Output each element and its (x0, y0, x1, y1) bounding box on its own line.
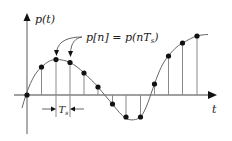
sample-point (123, 114, 128, 119)
sample-point (24, 92, 29, 97)
sample-point (152, 81, 157, 86)
sample-point (67, 60, 72, 65)
y-axis-label: p(t) (35, 13, 55, 26)
x-axis-label: t (212, 103, 217, 116)
sample-point (166, 53, 171, 58)
sampling-equation: p[n] = p(nTs) (86, 31, 159, 45)
period-label: Ts (59, 104, 69, 116)
sample-point (81, 70, 86, 75)
x-axis-arrow-icon (208, 91, 217, 99)
pointer-arrowhead-1-icon (54, 50, 59, 56)
pointer-arrow-2 (71, 37, 83, 53)
period-arrow-left-icon (51, 107, 56, 112)
sample-point (180, 40, 185, 45)
sampled-signal-diagram: p(t) t p[n] = p(nTs) Ts (0, 0, 232, 141)
sample-point (53, 57, 58, 62)
pointer-arrowhead-2-icon (68, 51, 73, 57)
period-arrow-right-icon (70, 107, 75, 112)
sample-point (138, 114, 143, 119)
continuous-signal-curve (22, 35, 208, 120)
sample-point (194, 33, 199, 38)
sample-point (110, 101, 115, 106)
sample-point (95, 84, 100, 89)
sample-dots (24, 33, 199, 119)
sample-point (39, 64, 44, 69)
pointer-arrow-1 (57, 37, 83, 52)
y-axis-arrow-icon (24, 13, 31, 21)
